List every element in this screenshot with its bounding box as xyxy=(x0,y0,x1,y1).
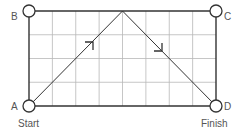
pocket-a xyxy=(23,100,35,112)
arrow-up-right-icon xyxy=(85,42,93,50)
corner-label-b: B xyxy=(11,11,18,22)
corner-label-c: C xyxy=(224,11,231,22)
corner-label-a: A xyxy=(11,101,18,112)
corner-label-d: D xyxy=(224,101,231,112)
pocket-d xyxy=(210,100,222,112)
pocket-b xyxy=(23,5,35,17)
pool-table-diagram: B C A D Start Finish xyxy=(0,0,241,134)
grid-lines xyxy=(29,11,216,106)
finish-caption: Finish xyxy=(201,118,228,129)
direction-arrows xyxy=(85,42,162,51)
start-caption: Start xyxy=(18,118,39,129)
pocket-c xyxy=(210,5,222,17)
